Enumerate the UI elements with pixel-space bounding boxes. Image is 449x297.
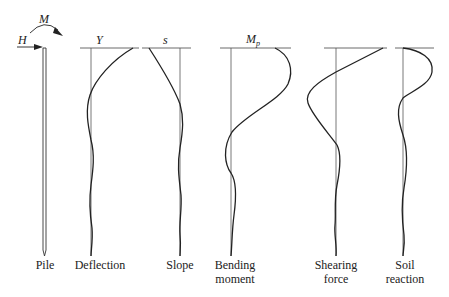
label-soil-line2: reaction — [380, 272, 430, 286]
label-shearing-line1: Shearing — [310, 258, 362, 272]
horizontal-force-symbol: H — [18, 33, 27, 48]
label-shearing-line2: force — [310, 272, 362, 286]
label-shearing-force: Shearingforce — [310, 258, 362, 286]
label-soil-line1: Soil — [380, 258, 430, 272]
moment-symbol: M — [39, 12, 49, 27]
bending-moment-plot — [220, 48, 291, 256]
bending-moment-symbol-main: M — [246, 32, 256, 46]
bending-moment-symbol-sub: p — [256, 39, 260, 48]
deflection-plot — [80, 48, 139, 256]
label-deflection-line1: Deflection — [68, 258, 132, 272]
soil-reaction-plot — [395, 48, 434, 256]
label-deflection: Deflection — [68, 258, 132, 272]
label-bending-moment: Bendingmoment — [210, 258, 260, 286]
pile-shape — [43, 48, 46, 256]
bending-moment-symbol: Mp — [246, 32, 260, 48]
label-slope: Slope — [160, 258, 200, 272]
label-slope-line1: Slope — [160, 258, 200, 272]
shearing-force-plot — [307, 48, 387, 256]
slope-plot — [142, 48, 191, 256]
label-pile-line1: Pile — [28, 258, 62, 272]
pile-diagram — [0, 0, 449, 297]
label-bending-line2: moment — [210, 272, 260, 286]
deflection-symbol: Y — [96, 33, 103, 48]
label-bending-line1: Bending — [210, 258, 260, 272]
label-soil-reaction: Soilreaction — [380, 258, 430, 286]
slope-symbol: s — [163, 33, 168, 48]
label-pile: Pile — [28, 258, 62, 272]
